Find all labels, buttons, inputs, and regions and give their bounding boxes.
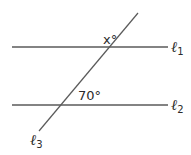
line-l3-transversal [39,13,138,131]
line-l2-label: ℓ2 [171,96,184,115]
line-l3-label: ℓ3 [30,131,43,150]
line-l1-label: ℓ1 [171,38,184,57]
parallel-lines-diagram: x° 70° ℓ1 ℓ2 ℓ3 [0,0,191,155]
angle-70-label: 70° [78,88,101,103]
angle-x-label: x° [103,32,117,47]
